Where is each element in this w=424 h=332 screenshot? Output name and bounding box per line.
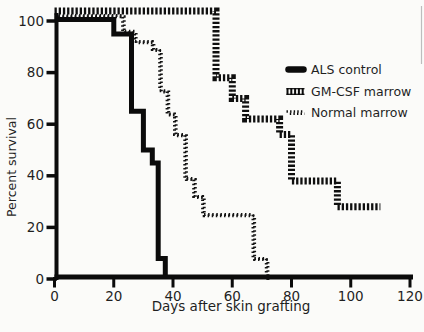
y-tick-label: 40: [27, 167, 44, 183]
x-tick-label: 120: [397, 288, 423, 304]
survival-figure: 020406080100020406080100120Percent survi…: [0, 0, 424, 332]
survival-chart-svg: 020406080100020406080100120Percent survi…: [0, 0, 424, 332]
y-tick-label: 20: [27, 219, 44, 235]
x-tick-label: 100: [338, 288, 364, 304]
gm-csf-marrow-legend-label: GM-CSF marrow: [311, 84, 411, 99]
y-axis-label: Percent survival: [4, 117, 19, 217]
x-tick-label: 0: [50, 288, 59, 304]
y-tick-label: 80: [27, 64, 44, 80]
x-axis-label: Days after skin grafting: [152, 298, 311, 314]
normal-marrow-legend-label: Normal marrow: [311, 105, 408, 120]
y-tick-label: 100: [18, 13, 44, 29]
y-tick-label: 60: [27, 116, 44, 132]
als-control-curve: [55, 20, 166, 280]
als-control-legend-label: ALS control: [311, 62, 382, 77]
normal-marrow-curve-speckle: [56, 17, 268, 281]
x-tick-label: 20: [105, 288, 122, 304]
y-tick-label: 0: [35, 271, 44, 287]
